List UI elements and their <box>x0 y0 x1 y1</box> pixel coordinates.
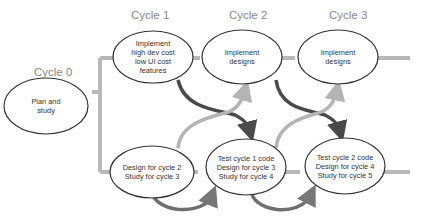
text-line: Study for cycle 3 <box>125 172 180 181</box>
text-line: study <box>37 106 55 115</box>
text-line: Test cycle 1 code <box>218 154 275 163</box>
text-line: Test cycle 2 code <box>317 153 374 162</box>
arrows-implement-to-test <box>178 80 340 132</box>
cycle-label-1: Cycle 1 <box>131 9 169 21</box>
node-design3-text: Test cycle 2 code Design for cycle 4 Stu… <box>303 141 387 191</box>
text-line: Implement <box>321 48 356 57</box>
text-line: high dev cost <box>131 48 175 57</box>
text-line: Implement <box>225 48 260 57</box>
cycle-label-3: Cycle 3 <box>329 9 367 21</box>
arrows-design-to-implement <box>178 90 337 148</box>
cycle-label-0: Cycle 0 <box>34 66 72 78</box>
text-line: Plan and <box>31 97 60 106</box>
cycle-label-2: Cycle 2 <box>229 9 267 21</box>
text-line: Study for cycle 5 <box>318 171 373 180</box>
text-line: Design for cycle 3 <box>217 163 276 172</box>
node-plan-text: Plan and study <box>6 80 86 132</box>
text-line: designs <box>229 57 254 66</box>
node-impl3-text: Implement designs <box>298 33 378 81</box>
arrows-design-to-next-design <box>152 194 311 210</box>
node-design1-text: Design for cycle 2 Study for cycle 3 <box>110 148 194 196</box>
text-line: Implement <box>136 39 171 48</box>
text-line: Study for cycle 4 <box>219 172 274 181</box>
text-line: low UI cost <box>135 57 171 66</box>
text-line: features <box>140 66 167 75</box>
text-line: Design for cycle 4 <box>316 162 375 171</box>
node-design2-text: Test cycle 1 code Design for cycle 3 Stu… <box>204 142 288 192</box>
text-line: Design for cycle 2 <box>123 163 182 172</box>
node-impl2-text: Implement designs <box>202 33 282 81</box>
node-impl1-text: Implement high dev cost low UI cost feat… <box>113 33 193 81</box>
text-line: designs <box>325 57 350 66</box>
